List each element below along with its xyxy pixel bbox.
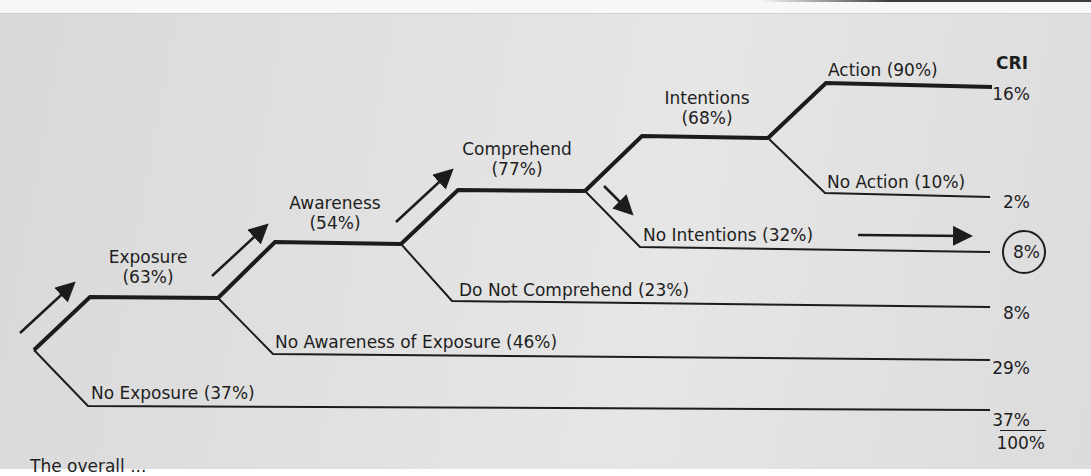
branch-action: [768, 83, 992, 138]
branch-awareness: [218, 242, 401, 298]
label-exposure: Exposure (63%): [98, 247, 198, 287]
arrow-right-no-intentions: [858, 235, 968, 236]
branch-exposure: [34, 297, 218, 350]
arrow-up-awareness: [212, 227, 265, 276]
cri-value-no-action: 2%: [970, 192, 1030, 212]
label-do-not-comprehend: Do Not Comprehend (23%): [459, 280, 689, 300]
label-awareness-pct: (54%): [280, 213, 390, 233]
arrow-down-no-intentions: [604, 186, 630, 212]
branch-intentions: [585, 136, 768, 191]
cri-value-do-not-comprehend: 8%: [970, 303, 1030, 323]
label-intentions-pct: (68%): [652, 108, 762, 128]
cri-value-total: 100%: [985, 433, 1045, 453]
label-intentions-name: Intentions: [652, 88, 762, 108]
label-intentions: Intentions (68%): [652, 88, 762, 128]
label-awareness: Awareness (54%): [280, 193, 390, 233]
label-comprehend-name: Comprehend: [452, 139, 582, 159]
cri-value-no-intentions: 8%: [980, 242, 1040, 262]
label-no-awareness: No Awareness of Exposure (46%): [275, 332, 557, 352]
arrow-up-exposure: [20, 285, 72, 333]
total-rule: [1000, 430, 1046, 431]
label-awareness-name: Awareness: [280, 193, 390, 213]
label-no-intentions: No Intentions (32%): [643, 225, 813, 245]
label-no-action: No Action (10%): [827, 172, 965, 192]
label-action: Action (90%): [828, 60, 938, 80]
label-exposure-name: Exposure: [98, 247, 198, 267]
cri-value-no-awareness: 29%: [970, 358, 1030, 378]
label-no-exposure: No Exposure (37%): [91, 383, 255, 403]
label-exposure-pct: (63%): [98, 267, 198, 287]
arrow-up-comprehend: [396, 172, 450, 222]
branch-comprehend: [401, 190, 585, 244]
label-comprehend-pct: (77%): [452, 159, 582, 179]
cri-value-no-exposure: 37%: [970, 410, 1030, 430]
caption-partial: The overall ...: [30, 456, 146, 476]
cri-header: CRI: [968, 53, 1028, 73]
cri-value-action: 16%: [970, 84, 1030, 104]
label-comprehend: Comprehend (77%): [452, 139, 582, 179]
